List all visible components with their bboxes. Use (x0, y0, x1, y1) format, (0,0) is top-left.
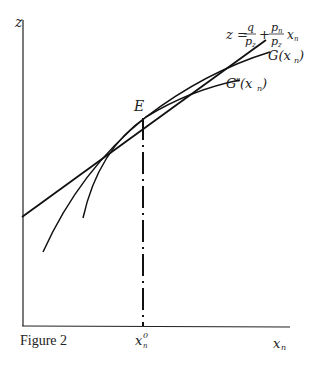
figure-diagram: z E z = q p z + p n p z x n G(x n ) G s … (0, 0, 315, 365)
svg-text:0: 0 (143, 331, 148, 340)
svg-text:G: G (226, 76, 236, 91)
svg-text:p: p (245, 35, 252, 48)
curve-gs (83, 80, 240, 218)
svg-text:p: p (271, 21, 278, 34)
xn0-tick-label: x 0 n (135, 331, 148, 350)
figure-caption: Figure 2 (20, 333, 67, 348)
svg-text:): ) (261, 76, 267, 91)
svg-text:x: x (287, 28, 294, 42)
svg-text:x: x (135, 333, 143, 348)
svg-text:+: + (259, 27, 270, 42)
svg-text:z: z (251, 41, 256, 49)
svg-text:): ) (298, 48, 304, 63)
svg-text:n: n (143, 342, 148, 350)
curve-g-label: G(x n ) (268, 48, 304, 65)
svg-text:n: n (281, 343, 286, 352)
x-axis-label: x n (273, 336, 286, 352)
line-equation-label: z = q p z + p n p z x n (225, 21, 299, 49)
svg-text:p: p (271, 35, 278, 48)
point-e-label: E (133, 98, 144, 114)
y-axis-label: z (14, 14, 23, 30)
svg-text:n: n (294, 35, 299, 43)
svg-text:x: x (273, 336, 281, 351)
svg-text:q: q (247, 21, 254, 34)
x-axis (22, 326, 290, 327)
svg-text:G(x: G(x (268, 48, 291, 63)
svg-text:(x: (x (240, 76, 253, 91)
curve-gs-label: G s (x n ) (226, 75, 267, 93)
